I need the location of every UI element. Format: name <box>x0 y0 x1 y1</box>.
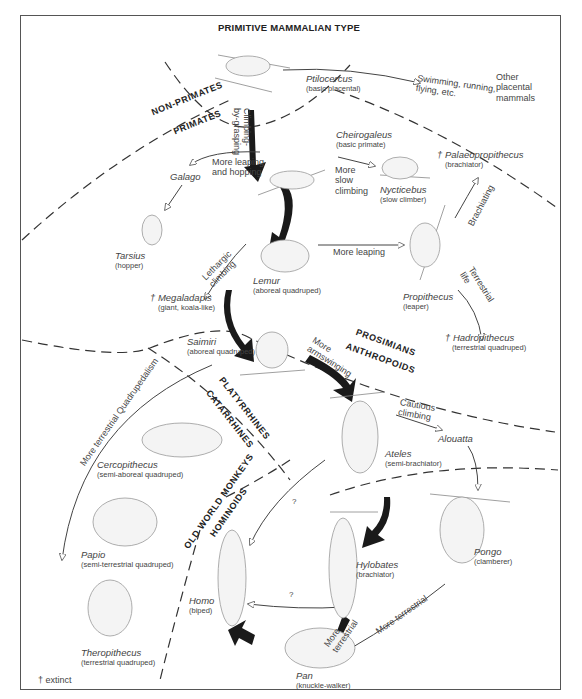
genus-desc: (brachiator) <box>445 161 524 170</box>
ptilocercus-figure <box>226 56 270 76</box>
arrow-to-hylobates <box>362 497 390 548</box>
taxon-ateles: Ateles (semi-brachiator) <box>385 449 442 469</box>
question-mark-hylobates-homo: ? <box>289 590 293 599</box>
label-line: Climbing- <box>242 108 252 155</box>
taxon-nycticebus: Nycticebus (slow climber) <box>380 185 426 205</box>
label-line: and hopping <box>212 167 264 177</box>
taxon-homo: Homo (biped) <box>189 596 214 616</box>
taxon-cheirogaleus: Cheirogaleus (basic primate) <box>336 130 392 150</box>
genus-desc: (knuckle-walker) <box>296 682 351 691</box>
transition-more-leaping: More leaping <box>333 247 385 257</box>
genus-desc: (basic placental) <box>306 85 361 94</box>
label-line: placental <box>496 82 535 92</box>
taxon-theropithecus: Theropithecus (terrestrial quadruped) <box>81 648 155 668</box>
homo-figure <box>218 530 246 626</box>
saimiri-figure <box>256 332 288 368</box>
footnote-extinct: † extinct <box>38 675 72 685</box>
label-line: Other <box>496 72 535 82</box>
arrow-hylobates-homo <box>248 604 345 608</box>
genus-desc: (terrestrial quadruped) <box>452 344 526 353</box>
taxon-saimiri: Saimiri (aboreal quadruped) <box>187 337 255 357</box>
genus-desc: (leaper) <box>403 303 453 312</box>
taxon-other-mammals: Other placental mammals <box>496 72 535 103</box>
genus-desc: (basic primate) <box>336 141 392 150</box>
theropithecus-figure <box>88 580 132 636</box>
label-line: by-grasping <box>231 108 241 155</box>
label-line: More <box>335 165 368 175</box>
taxon-ptilocercus: Ptilocercus (basic placental) <box>306 74 361 94</box>
genus-desc: (aboreal quadruped) <box>187 348 255 357</box>
taxon-propithecus: Propithecus (leaper) <box>403 292 453 312</box>
hylobates-figure <box>329 518 357 618</box>
genus-desc: (biped) <box>189 607 214 616</box>
taxon-megaladapis: † Megaladapis (giant, koala-like) <box>150 293 215 313</box>
taxon-tarsius: Tarsius (hopper) <box>115 251 145 271</box>
taxon-papio: Papio (semi-terrestrial quadruped) <box>81 550 174 570</box>
label-line: mammals <box>496 93 535 103</box>
label-line: climbing <box>335 186 368 196</box>
genus-desc: (semi-aboreal quadruped) <box>97 471 183 480</box>
taxon-pongo: Pongo (clamberer) <box>474 547 512 567</box>
label-line: More leaping <box>212 157 264 167</box>
question-mark-ateles-homo: ? <box>292 497 296 506</box>
taxon-cercopithecus: Cercopithecus (semi-aboreal quadruped) <box>97 460 183 480</box>
diagram-title: PRIMITIVE MAMMALIAN TYPE <box>218 23 360 34</box>
taxon-galago: Galago <box>170 172 201 183</box>
nycticebus-figure <box>382 157 418 179</box>
propithecus-figure <box>410 223 440 267</box>
taxon-hylobates: Hylobates (brachiator) <box>356 560 398 580</box>
transition-slow-climbing: More slow climbing <box>335 165 368 196</box>
genus-desc: (slow climber) <box>380 196 426 205</box>
genus-desc: (clamberer) <box>474 558 512 567</box>
papio-figure <box>93 498 157 546</box>
taxon-pan: Pan (knuckle-walker) <box>296 671 351 691</box>
genus-desc: (brachiator) <box>356 571 398 580</box>
tarsius-figure <box>142 215 162 245</box>
transition-leaping-hopping: More leaping and hopping <box>212 157 264 178</box>
genus-desc: (semi-terrestrial quadruped) <box>81 561 174 570</box>
taxon-alouatta: Alouatta <box>438 434 473 445</box>
genus-desc: (giant, koala-like) <box>158 304 215 313</box>
label-line: slow <box>335 175 368 185</box>
cercopithecus-figure <box>142 423 222 457</box>
cheirogaleus-figure <box>270 171 314 189</box>
taxon-palaeopropithecus: † Palaeopropithecus (brachiator) <box>437 150 524 170</box>
lemur-figure <box>261 240 309 272</box>
arrow-galago-tarsius <box>165 185 182 210</box>
genus-desc: (semi-brachiator) <box>385 460 442 469</box>
taxon-lemur: Lemur (aboreal quadruped) <box>253 276 321 296</box>
genus-desc: (hopper) <box>115 262 145 271</box>
arrow-ateles-homo <box>250 460 325 545</box>
genus-desc: (aboreal quadruped) <box>253 287 321 296</box>
genus-desc: (terrestrial quadruped) <box>81 659 155 668</box>
transition-climbing: Climbing- by-grasping <box>231 108 252 155</box>
taxon-hadropithecus: † Hadropithecus (terrestrial quadruped) <box>445 333 526 353</box>
ateles-figure <box>342 401 378 473</box>
